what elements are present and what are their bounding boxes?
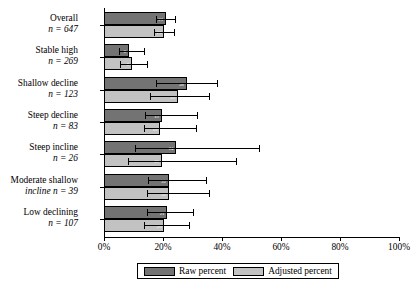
error-bar-cap-low <box>150 93 151 100</box>
error-bar <box>144 225 190 226</box>
error-bar <box>128 161 237 162</box>
category-n: n = 647 <box>0 24 78 35</box>
error-bar-cap-low <box>154 29 155 36</box>
category-name: Moderate shallow <box>0 175 78 186</box>
error-bar-cap-low <box>144 222 145 229</box>
x-axis-line <box>104 237 400 238</box>
error-bar-cap-low <box>135 145 136 152</box>
error-bar-cap-low <box>148 177 149 184</box>
bar-value-label: 24 <box>169 142 175 155</box>
error-bar-cap-high <box>175 16 176 23</box>
error-bar <box>135 148 260 149</box>
x-axis-tick <box>399 237 400 241</box>
x-axis-tick-label: 100% <box>388 242 410 252</box>
category-name: Low declining <box>0 207 78 218</box>
error-bar-cap-low <box>156 16 157 23</box>
category-label: Stable highn = 269 <box>0 45 78 67</box>
x-axis-tick <box>281 237 282 241</box>
bar-value-label: 20 <box>157 220 163 233</box>
error-bar-cap-high <box>259 145 260 152</box>
error-bar-cap-high <box>147 61 148 68</box>
bar-value-label: 19 <box>152 123 158 136</box>
error-bar-cap-high <box>209 93 210 100</box>
x-axis-tick-label: 0% <box>98 242 111 252</box>
legend-swatch-adjusted <box>233 267 264 276</box>
x-axis-tick-label: 60% <box>272 242 289 252</box>
bar-value-label: 28 <box>179 78 185 91</box>
chart-legend: Raw percent Adjusted percent <box>137 263 339 279</box>
x-axis-tick <box>104 237 105 241</box>
category-name: Shallow decline <box>0 78 78 89</box>
error-bar-cap-low <box>145 112 146 119</box>
error-bar-cap-high <box>196 125 197 132</box>
bar-value-label: 22 <box>161 188 167 201</box>
category-label: Overalln = 647 <box>0 13 78 35</box>
bar-value-label: 25 <box>170 91 176 104</box>
error-bar-cap-high <box>236 158 237 165</box>
category-n: n = 269 <box>0 56 78 67</box>
error-bar-cap-high <box>144 48 145 55</box>
error-bar-cap-low <box>156 80 157 87</box>
bar-value-label: 20 <box>157 26 163 39</box>
error-bar-cap-high <box>206 177 207 184</box>
category-label: Moderate shallowincline n = 39 <box>0 175 78 197</box>
category-label: Shallow declinen = 123 <box>0 78 78 100</box>
category-name: Stable high <box>0 45 78 56</box>
bar-value-label: 9 <box>127 58 130 71</box>
error-bar-cap-low <box>144 125 145 132</box>
x-axis-tick <box>163 237 164 241</box>
error-bar-cap-low <box>119 48 120 55</box>
bar-value-label: 19 <box>154 155 160 168</box>
error-bar <box>156 83 218 84</box>
error-bar <box>147 212 194 213</box>
category-name: Steep decline <box>0 110 78 121</box>
error-bar <box>154 32 175 33</box>
error-bar <box>147 193 210 194</box>
error-bar <box>119 51 146 52</box>
x-axis-tick-label: 20% <box>154 242 171 252</box>
x-axis-tick-label: 40% <box>213 242 230 252</box>
category-label: Steep declinen = 83 <box>0 110 78 132</box>
error-bar <box>144 128 197 129</box>
error-bar-cap-low <box>128 158 129 165</box>
legend-item-adjusted: Adjusted percent <box>233 266 332 276</box>
legend-item-raw: Raw percent <box>144 266 226 276</box>
legend-swatch-raw <box>144 267 175 276</box>
legend-label-adjusted: Adjusted percent <box>268 266 332 276</box>
plot-area: Overalln = 6472120Stable highn = 26989Sh… <box>104 8 399 237</box>
category-n: incline n = 39 <box>0 186 78 197</box>
error-bar <box>156 19 177 20</box>
x-axis-tick-label: 80% <box>331 242 348 252</box>
x-axis-tick <box>340 237 341 241</box>
legend-label-raw: Raw percent <box>179 266 226 276</box>
category-name: Steep incline <box>0 142 78 153</box>
error-bar-cap-high <box>174 29 175 36</box>
category-label: Low decliningn = 107 <box>0 207 78 229</box>
category-name: Overall <box>0 13 78 24</box>
error-bar-cap-high <box>209 190 210 197</box>
category-n: n = 26 <box>0 153 78 164</box>
category-label: Steep inclinen = 26 <box>0 142 78 164</box>
error-bar-cap-high <box>217 80 218 87</box>
error-bar-cap-low <box>120 61 121 68</box>
error-bar-cap-low <box>147 190 148 197</box>
error-bar <box>145 115 198 116</box>
x-axis-tick <box>222 237 223 241</box>
error-bar-cap-high <box>189 222 190 229</box>
error-bar <box>150 96 210 97</box>
bar-chart: Overalln = 6472120Stable highn = 26989Sh… <box>0 0 420 291</box>
category-n: n = 83 <box>0 121 78 132</box>
category-n: n = 107 <box>0 218 78 229</box>
error-bar <box>120 64 148 65</box>
error-bar <box>148 180 207 181</box>
error-bar-cap-high <box>197 112 198 119</box>
error-bar-cap-high <box>193 209 194 216</box>
category-n: n = 123 <box>0 89 78 100</box>
error-bar-cap-low <box>147 209 148 216</box>
